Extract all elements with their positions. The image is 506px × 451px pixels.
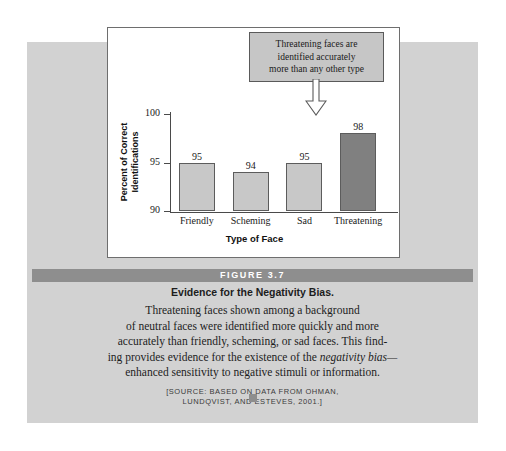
callout-line-1: Threatening faces are: [254, 38, 379, 51]
y-axis-title: Percent of Correct Identifications: [122, 106, 138, 218]
y-tick-mark: [164, 211, 171, 212]
chart-panel: Threatening faces are identified accurat…: [107, 27, 400, 258]
caption-line-5: enhanced sensitivity to negative stimuli…: [32, 365, 473, 381]
caption-line-2: of neutral faces were identified more qu…: [32, 319, 473, 335]
arrow-down-icon: [305, 79, 327, 116]
caption-body: Threatening faces shown among a backgrou…: [32, 303, 473, 381]
bar-friendly: 95: [179, 163, 215, 212]
bar-threatening: 98: [340, 133, 376, 211]
caption-italic-term: negativity bias—: [320, 351, 398, 363]
x-label-friendly: Friendly: [170, 215, 224, 226]
caption-title: Evidence for the Negativity Bias.: [32, 286, 473, 298]
y-axis-title-line-2: Identifications: [130, 123, 141, 202]
plot-area: 95949598: [170, 114, 385, 211]
figure-caption: Evidence for the Negativity Bias. Threat…: [32, 286, 473, 407]
end-of-caption-marker: [249, 394, 257, 402]
y-axis-title-line-1: Percent of Correct: [119, 123, 130, 202]
callout-line-2: identified accurately: [254, 51, 379, 64]
figure-banner: FIGURE 3.7: [32, 269, 473, 282]
bar-value-label: 94: [246, 160, 256, 171]
bar-value-label: 98: [353, 121, 363, 132]
caption-line-4: ing provides evidence for the existence …: [32, 350, 473, 366]
x-axis-line: [170, 212, 398, 213]
y-tick-label: 95: [150, 156, 160, 167]
bar-value-label: 95: [192, 151, 202, 162]
callout-line-3: more than any other type: [254, 63, 379, 76]
caption-line-4-text: ing provides evidence for the existence …: [108, 351, 320, 363]
bar-value-label: 95: [299, 151, 309, 162]
caption-line-1: Threatening faces shown among a backgrou…: [32, 303, 473, 319]
x-axis-title: Type of Face: [108, 233, 401, 244]
x-label-threatening: Threatening: [331, 215, 385, 226]
x-label-sad: Sad: [278, 215, 332, 226]
callout-box: Threatening faces are identified accurat…: [249, 32, 384, 82]
bar-scheming: 94: [233, 172, 269, 211]
y-tick: 90: [164, 211, 171, 212]
x-label-scheming: Scheming: [224, 215, 278, 226]
bar-sad: 95: [286, 163, 322, 212]
y-tick-label: 100: [145, 107, 160, 118]
y-tick-label: 90: [150, 204, 160, 215]
caption-line-3: accurately than friendly, scheming, or s…: [32, 334, 473, 350]
